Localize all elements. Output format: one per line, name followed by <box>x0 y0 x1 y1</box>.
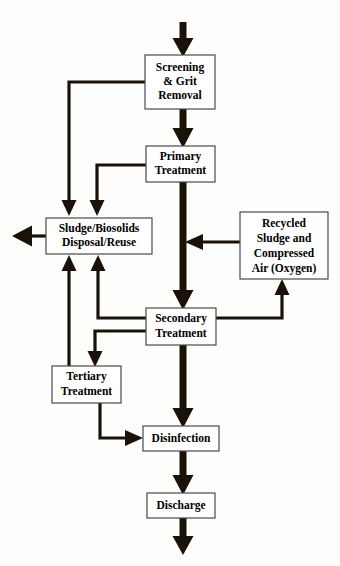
node-secondary-label-line-2: Treatment <box>155 327 206 339</box>
edge-secondary-to-recycled <box>216 279 290 318</box>
node-secondary-treatment[interactable]: Secondary Treatment <box>146 308 216 345</box>
edge-recycled-to-mainline <box>185 234 240 250</box>
node-primary-label-line-2: Treatment <box>155 164 206 176</box>
node-screening-and-grit-removal[interactable]: Screening & Grit Removal <box>145 55 215 109</box>
node-recycled-label-line-2: Sludge and <box>257 232 312 245</box>
node-screening-label-line-2: & Grit <box>163 75 197 87</box>
edge-secondary-to-disinfection <box>173 345 194 428</box>
edge-secondary-to-sludge <box>91 255 147 318</box>
node-recycled-label-line-4: Air (Oxygen) <box>252 262 317 275</box>
node-sludge-label-line-1: Sludge/Biosolids <box>59 222 140 235</box>
node-screening-label-line-1: Screening <box>156 61 205 74</box>
edge-screening-to-primary <box>173 109 194 148</box>
edge-secondary-to-tertiary <box>88 331 147 367</box>
edge-primary-to-secondary <box>173 182 194 310</box>
edge-sludge-to-offsite <box>12 226 46 247</box>
node-primary-treatment[interactable]: Primary Treatment <box>146 146 215 182</box>
edge-primary-to-sludge <box>90 165 147 216</box>
node-disinfection[interactable]: Disinfection <box>143 426 219 451</box>
edge-discharge-to-receiving-water <box>173 518 194 555</box>
node-sludge-label-line-2: Disposal/Reuse <box>62 236 136 249</box>
edge-influent-to-screening <box>173 22 194 57</box>
node-recycled-label-line-1: Recycled <box>262 217 307 230</box>
edge-disinfection-to-discharge <box>173 451 194 495</box>
node-primary-label-line-1: Primary <box>160 150 202 163</box>
node-screening-label-line-3: Removal <box>158 89 201 101</box>
edge-screening-to-sludge <box>62 82 146 216</box>
node-recycled-sludge-and-compressed-air[interactable]: Recycled Sludge and Compressed Air (Oxyg… <box>240 212 328 279</box>
node-sludge-biosolids-disposal-reuse[interactable]: Sludge/Biosolids Disposal/Reuse <box>46 218 152 254</box>
edge-tertiary-to-disinfection <box>100 403 143 446</box>
edge-tertiary-to-sludge <box>62 255 77 366</box>
flowchart-svg: Screening & Grit Removal Primary Treatme… <box>0 0 340 566</box>
node-secondary-label-line-1: Secondary <box>155 312 207 325</box>
node-tertiary-label-line-2: Treatment <box>61 385 112 397</box>
node-discharge-label: Discharge <box>156 499 205 512</box>
flowchart-canvas: Screening & Grit Removal Primary Treatme… <box>0 0 340 566</box>
node-disinfection-label: Disinfection <box>152 432 211 444</box>
node-discharge[interactable]: Discharge <box>147 493 215 518</box>
node-tertiary-treatment[interactable]: Tertiary Treatment <box>52 366 121 403</box>
node-recycled-label-line-3: Compressed <box>254 247 315 260</box>
node-tertiary-label-line-1: Tertiary <box>66 370 107 383</box>
